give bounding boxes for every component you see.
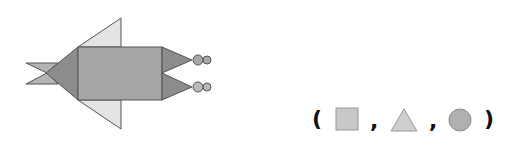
circle-icon [449, 109, 471, 131]
upper-circle-large [193, 55, 203, 65]
right-upper-triangle [162, 47, 192, 73]
right-lower-triangle [162, 73, 192, 100]
bottom-fin-triangle [78, 100, 121, 129]
fish-figure [0, 0, 510, 146]
triangle-icon [391, 109, 417, 131]
upper-circle-small [203, 56, 211, 64]
body-rectangle [78, 47, 162, 100]
lower-circle-large [193, 82, 203, 92]
body-left-triangle [46, 47, 78, 100]
lower-circle-small [203, 83, 211, 91]
top-fin-triangle [78, 18, 121, 47]
square-icon [336, 108, 358, 130]
